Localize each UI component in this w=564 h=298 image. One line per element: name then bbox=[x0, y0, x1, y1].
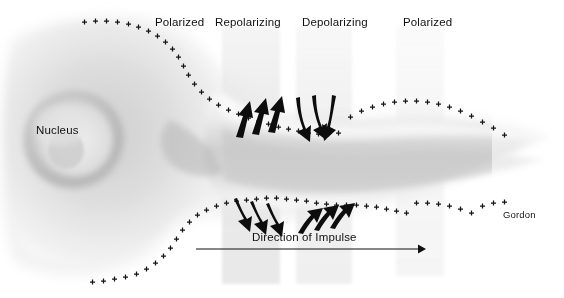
zone-label-polarized-right: Polarized bbox=[403, 16, 452, 28]
nucleus-label: Nucleus bbox=[36, 124, 79, 136]
artist-signature: Gordon bbox=[503, 209, 536, 220]
neuron-illustration bbox=[0, 0, 564, 298]
zone-label-repolarizing: Repolarizing bbox=[215, 16, 281, 28]
zone-label-depolarizing: Depolarizing bbox=[302, 16, 368, 28]
zone-label-polarized-left: Polarized bbox=[155, 16, 204, 28]
impulse-direction-label: Direction of Impulse bbox=[252, 231, 357, 243]
nucleus-shape bbox=[24, 91, 124, 189]
neuron-diagram: Polarized Repolarizing Depolarizing Pola… bbox=[0, 0, 564, 298]
